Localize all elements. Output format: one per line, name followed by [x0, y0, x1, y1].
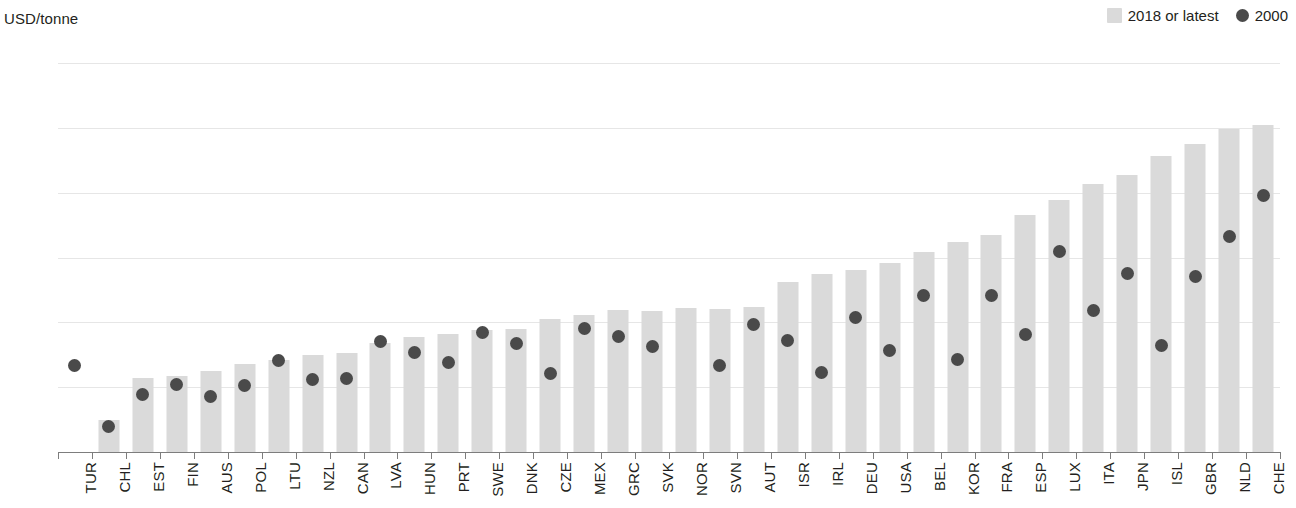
x-axis-tick — [601, 452, 602, 459]
x-axis-label-PRT: PRT — [455, 462, 472, 492]
bar-ISR — [777, 282, 798, 453]
bar-BEL — [913, 252, 934, 452]
dot-CZE — [544, 367, 557, 380]
x-axis-tick — [499, 452, 500, 459]
y-axis-unit-label: USD/tonne — [4, 10, 78, 27]
x-axis-label-SVK: SVK — [659, 462, 676, 493]
chart-column — [873, 63, 907, 452]
x-axis-tick — [330, 452, 331, 459]
bar-AUS — [200, 371, 221, 452]
dot-LVA — [374, 335, 387, 348]
chart-column — [160, 63, 194, 452]
x-axis-tick — [160, 452, 161, 459]
x-axis-tick — [228, 452, 229, 459]
dot-IRL — [815, 366, 828, 379]
dot-POL — [238, 379, 251, 392]
bar-LVA — [370, 343, 391, 452]
legend-dot-label: 2000 — [1255, 7, 1288, 24]
bar-DEU — [845, 270, 866, 452]
bar-JPN — [1117, 175, 1138, 452]
chart-column — [805, 63, 839, 452]
chart-column — [228, 63, 262, 452]
x-axis-label-GBR: GBR — [1202, 462, 1219, 495]
x-axis-label-LVA: LVA — [387, 462, 404, 489]
dot-FRA — [985, 289, 998, 302]
x-axis-tick — [669, 452, 670, 459]
x-axis-label-DNK: DNK — [523, 462, 540, 494]
x-axis-tick — [1178, 452, 1179, 459]
chart-legend: 2018 or latest 2000 — [1107, 7, 1288, 24]
x-axis-tick — [397, 452, 398, 459]
x-axis-tick — [771, 452, 772, 459]
chart-column — [567, 63, 601, 452]
x-axis-label-CHE: CHE — [1270, 462, 1287, 494]
x-axis-tick — [1246, 452, 1247, 459]
chart-column — [465, 63, 499, 452]
x-axis-tick — [1008, 452, 1009, 459]
chart-column — [431, 63, 465, 452]
x-axis-tick — [431, 452, 432, 459]
dot-ITA — [1087, 304, 1100, 317]
chart-column — [1246, 63, 1280, 452]
x-axis-tick — [1076, 452, 1077, 459]
x-axis-tick — [1280, 452, 1281, 459]
dot-TUR — [68, 359, 81, 372]
chart-column — [126, 63, 160, 452]
dot-GRC — [612, 330, 625, 343]
dot-PRT — [442, 356, 455, 369]
bar-USA — [879, 263, 900, 452]
x-axis-tick — [1212, 452, 1213, 459]
x-axis-tick — [941, 452, 942, 459]
x-axis-label-CZE: CZE — [557, 462, 574, 493]
dot-USA — [883, 344, 896, 357]
chart-column — [941, 63, 975, 452]
x-axis-tick — [126, 452, 127, 459]
chart-column — [1212, 63, 1246, 452]
x-axis-label-SWE: SWE — [489, 462, 506, 497]
x-axis-label-AUT: AUT — [761, 462, 778, 493]
chart-column — [907, 63, 941, 452]
chart-column — [669, 63, 703, 452]
chart-column — [1110, 63, 1144, 452]
bar-NZL — [302, 355, 323, 452]
x-axis-label-FRA: FRA — [998, 462, 1015, 493]
dot-BEL — [917, 289, 930, 302]
x-axis-label-NZL: NZL — [320, 462, 337, 491]
bar-POL — [234, 364, 255, 452]
chart-column — [194, 63, 228, 452]
chart-column — [364, 63, 398, 452]
dot-ISL — [1155, 339, 1168, 352]
dot-NLD — [1223, 230, 1236, 243]
x-axis-label-SVN: SVN — [727, 462, 744, 493]
chart-column — [1076, 63, 1110, 452]
x-axis-tick — [737, 452, 738, 459]
bar-IRL — [811, 274, 832, 452]
x-axis-tick — [364, 452, 365, 459]
x-axis-tick — [1144, 452, 1145, 459]
chart-column — [771, 63, 805, 452]
dot-DNK — [510, 337, 523, 350]
dot-LUX — [1053, 245, 1066, 258]
bar-MEX — [574, 315, 595, 452]
dot-ESP — [1019, 328, 1032, 341]
x-axis-tick — [805, 452, 806, 459]
x-axis-tick — [296, 452, 297, 459]
chart-column — [1178, 63, 1212, 452]
x-axis-tick — [58, 452, 59, 459]
x-axis-label-ESP: ESP — [1032, 462, 1049, 493]
chart-column — [703, 63, 737, 452]
bar-KOR — [947, 242, 968, 452]
x-axis-label-POL: POL — [252, 462, 269, 493]
x-axis-label-NOR: NOR — [693, 462, 710, 496]
bar-SVK — [642, 311, 663, 452]
x-axis-tick — [1042, 452, 1043, 459]
chart-column — [839, 63, 873, 452]
x-axis-label-NLD: NLD — [1236, 462, 1253, 493]
chart-column — [296, 63, 330, 452]
legend-item-dot: 2000 — [1236, 7, 1288, 24]
x-axis-tick — [907, 452, 908, 459]
dot-DEU — [849, 311, 862, 324]
chart-column — [330, 63, 364, 452]
x-axis-label-ITA: ITA — [1100, 462, 1117, 485]
bar-ISL — [1151, 156, 1172, 452]
